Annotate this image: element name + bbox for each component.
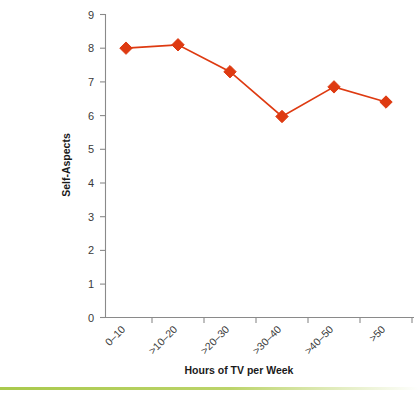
x-tick-label: >30–40	[250, 323, 284, 357]
y-tick-label: 3	[88, 211, 94, 223]
x-tick-label: >40–50	[302, 323, 336, 357]
data-point-marker	[172, 39, 184, 51]
x-tick-label: >50	[366, 323, 387, 344]
x-tick-label: 0–10	[102, 323, 127, 348]
y-tick-label: 0	[88, 312, 94, 324]
series-line-self-aspects	[126, 45, 386, 117]
y-tick-label: 9	[88, 9, 94, 21]
y-axis-ticks	[100, 15, 106, 318]
y-axis-tick-labels: 9 8 7 6 5 4 3 2 1 0	[88, 9, 94, 324]
y-tick-label: 8	[88, 42, 94, 54]
chart-container: 9 8 7 6 5 4 3 2 1 0 0–10 >10–20 >20–30 >…	[0, 0, 419, 395]
y-tick-label: 5	[88, 143, 94, 155]
y-tick-label: 7	[88, 76, 94, 88]
y-tick-label: 4	[88, 177, 94, 189]
y-axis-title: Self-Aspects	[60, 133, 72, 197]
green-divider	[0, 387, 419, 390]
y-tick-label: 2	[88, 244, 94, 256]
y-tick-label: 1	[88, 278, 94, 290]
data-point-marker	[328, 81, 340, 93]
line-chart: 9 8 7 6 5 4 3 2 1 0 0–10 >10–20 >20–30 >…	[0, 0, 419, 395]
data-point-marker	[380, 96, 392, 108]
x-axis-title: Hours of TV per Week	[185, 364, 294, 376]
data-point-marker	[120, 42, 132, 54]
x-tick-label: >10–20	[146, 323, 180, 357]
x-axis-tick-labels: 0–10 >10–20 >20–30 >30–40 >40–50 >50	[102, 323, 387, 357]
series-markers	[120, 39, 392, 123]
y-tick-label: 6	[88, 110, 94, 122]
x-tick-label: >20–30	[198, 323, 232, 357]
x-axis-ticks	[152, 318, 412, 324]
